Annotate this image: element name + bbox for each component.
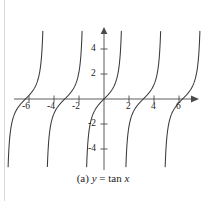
figure-caption: (a) y = tan x — [0, 172, 206, 184]
y-axis-arrow — [101, 27, 108, 34]
caption-index: (a) — [77, 172, 89, 184]
caption-equals: = — [99, 172, 105, 184]
figure-tan-x: -6 -4 -2 2 4 6 4 2 -2 -4 (a) y = tan x — [0, 0, 206, 201]
x-tick-label--2: -2 — [72, 101, 80, 111]
caption-function: tan — [108, 172, 121, 184]
x-axis-arrow — [191, 96, 199, 103]
caption-x: x — [124, 172, 129, 184]
x-tick-label-4: 4 — [151, 101, 156, 111]
y-tick-label--2: -2 — [88, 118, 96, 128]
x-tick-label--6: -6 — [22, 101, 30, 111]
y-tick-label-4: 4 — [91, 43, 96, 53]
x-tick-label-2: 2 — [126, 101, 131, 111]
x-tick-label-6: 6 — [176, 101, 181, 111]
caption-y: y — [92, 172, 97, 184]
y-tick-label--4: -4 — [88, 143, 96, 153]
x-tick-label--4: -4 — [47, 101, 55, 111]
y-tick-label-2: 2 — [91, 68, 96, 78]
